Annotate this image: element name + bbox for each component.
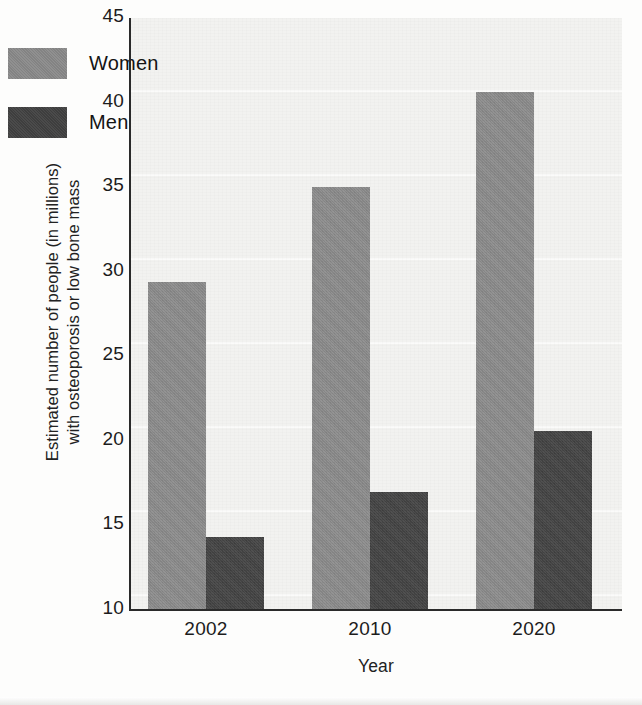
legend-swatch-men	[8, 107, 67, 138]
x-tick-label-2010: 2010	[330, 618, 410, 640]
paper-band	[130, 258, 622, 260]
y-tick-label: 25	[78, 343, 124, 365]
legend-label-women: Women	[89, 52, 159, 75]
x-axis-line	[129, 609, 622, 611]
legend: Women Men	[8, 48, 159, 166]
x-tick-label-2002: 2002	[166, 618, 246, 640]
y-tick-label: 10	[78, 597, 124, 619]
y-tick-label: 45	[78, 5, 124, 27]
legend-label-men: Men	[89, 111, 129, 134]
bar-women-2020	[476, 92, 534, 610]
paper-band	[130, 90, 622, 92]
x-axis-title: Year	[130, 656, 622, 677]
bar-women-2010	[312, 187, 370, 610]
y-tick-label: 35	[78, 174, 124, 196]
legend-swatch-women	[8, 48, 67, 79]
legend-item-men: Men	[8, 107, 159, 138]
y-tick-label: 20	[78, 428, 124, 450]
bar-men-2002	[206, 537, 264, 610]
x-tick-label-2020: 2020	[494, 618, 574, 640]
page-edge-shadow	[0, 697, 642, 705]
x-axis-tick-labels: 200220102020	[130, 618, 622, 652]
y-axis-line	[129, 18, 131, 611]
plot-area	[130, 18, 622, 610]
bar-women-2002	[148, 282, 206, 610]
bar-men-2020	[534, 431, 592, 610]
y-tick-label: 15	[78, 512, 124, 534]
bar-men-2010	[370, 492, 428, 610]
paper-band	[130, 174, 622, 176]
bar-chart-figure: Estimated number of people (in millions)…	[0, 0, 642, 705]
y-tick-label: 30	[78, 259, 124, 281]
legend-item-women: Women	[8, 48, 159, 79]
